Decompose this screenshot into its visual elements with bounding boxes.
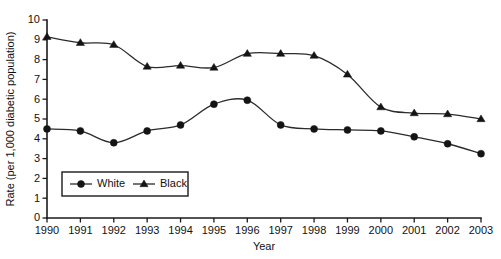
data-point-marker <box>77 127 84 134</box>
y-axis-tick-label: 0 <box>34 211 40 223</box>
chart-legend: WhiteBlack <box>62 172 188 196</box>
circle-marker <box>78 181 85 188</box>
y-axis-title: Rate (per 1,000 diabetic population) <box>4 32 16 207</box>
data-point-marker <box>244 97 251 104</box>
data-point-marker <box>110 139 117 146</box>
data-point-marker <box>144 127 151 134</box>
y-axis-tick-label: 5 <box>34 112 40 124</box>
line-chart-canvas: 0123456789101990199119921993199419951996… <box>0 0 501 259</box>
data-point-marker <box>210 101 217 108</box>
y-axis-tick-label: 10 <box>28 13 40 25</box>
y-axis-tick-label: 9 <box>34 33 40 45</box>
x-axis-tick-label: 2001 <box>402 224 426 236</box>
chart-figure: 0123456789101990199119921993199419951996… <box>0 0 501 259</box>
data-point-marker <box>177 121 184 128</box>
y-axis-tick-label: 8 <box>34 53 40 65</box>
x-axis-tick-label: 1999 <box>335 224 359 236</box>
series-black <box>43 33 485 122</box>
data-point-marker <box>444 140 451 147</box>
data-point-marker <box>377 127 384 134</box>
x-axis-tick-label: 1992 <box>102 224 126 236</box>
data-point-marker <box>43 33 51 40</box>
data-point-marker <box>344 126 351 133</box>
x-axis-title: Year <box>253 240 276 252</box>
x-axis-tick-label: 1994 <box>168 224 192 236</box>
data-point-marker <box>411 133 418 140</box>
x-axis-tick-label: 2003 <box>469 224 493 236</box>
data-point-marker <box>311 125 318 132</box>
x-axis-tick-label: 1997 <box>268 224 292 236</box>
x-axis-tick-label: 1990 <box>35 224 59 236</box>
data-point-marker <box>343 70 351 77</box>
data-point-marker <box>277 121 284 128</box>
y-axis-tick-label: 1 <box>34 192 40 204</box>
x-axis-tick-label: 2000 <box>369 224 393 236</box>
y-axis-tick-label: 3 <box>34 152 40 164</box>
data-point-marker <box>176 61 184 68</box>
data-point-marker <box>377 103 385 110</box>
legend-label-white: White <box>97 177 125 189</box>
x-axis-tick-label: 2002 <box>435 224 459 236</box>
x-axis-tick-label: 1993 <box>135 224 159 236</box>
series-white <box>44 97 485 157</box>
data-point-marker <box>478 150 485 157</box>
x-axis-tick-label: 1996 <box>235 224 259 236</box>
legend-label-black: Black <box>160 177 187 189</box>
y-axis-tick-label: 6 <box>34 93 40 105</box>
data-point-marker <box>44 125 51 132</box>
series-line-black <box>47 37 481 119</box>
x-axis-tick-label: 1995 <box>202 224 226 236</box>
y-axis-tick-label: 4 <box>34 132 40 144</box>
x-axis-tick-label: 1991 <box>68 224 92 236</box>
y-axis-tick-label: 7 <box>34 73 40 85</box>
x-axis-tick-label: 1998 <box>302 224 326 236</box>
y-axis-tick-label: 2 <box>34 172 40 184</box>
